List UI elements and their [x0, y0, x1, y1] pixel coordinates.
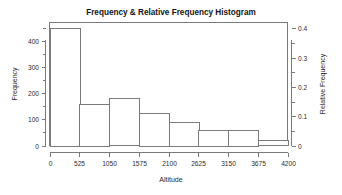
bottom-tick-label: 1575 [132, 160, 147, 167]
right-tick-label: 0.4 [298, 25, 307, 32]
right-axis-title: Relative Frequency [319, 53, 327, 114]
bottom-tick-label: 2100 [162, 160, 177, 167]
histogram-bar [259, 141, 289, 146]
left-axis-title: Frequency [11, 67, 19, 101]
bottom-tick-label: 3150 [221, 160, 236, 167]
bottom-axis-title: Altitude [159, 176, 182, 183]
histogram-bar [80, 105, 110, 147]
bottom-tick-label: 2625 [191, 160, 206, 167]
right-tick-label: 0.1 [298, 113, 307, 120]
left-tick-label: 100 [28, 116, 39, 123]
right-tick-label: 0 [298, 143, 302, 150]
histogram-svg: Frequency & Relative Frequency Histogram… [0, 0, 342, 195]
bottom-tick-label: 4200 [281, 160, 296, 167]
left-tick-label: 200 [28, 90, 39, 97]
histogram-bar [110, 99, 140, 146]
histogram-bar [170, 123, 200, 147]
left-tick-label: 300 [28, 64, 39, 71]
histogram-bar [229, 131, 259, 147]
histogram-bar [51, 29, 81, 147]
histogram-bar [199, 131, 229, 147]
histogram-bar [140, 114, 170, 147]
right-tick-label: 0.2 [298, 84, 307, 91]
right-tick-label: 0.3 [298, 55, 307, 62]
histogram-chart: Frequency & Relative Frequency Histogram… [0, 0, 342, 195]
bottom-tick-label: 3675 [251, 160, 266, 167]
chart-title: Frequency & Relative Frequency Histogram [86, 8, 256, 17]
bottom-tick-label: 1050 [102, 160, 117, 167]
bottom-tick-label: 525 [74, 160, 85, 167]
left-tick-label: 400 [28, 38, 39, 45]
bottom-tick-label: 0 [49, 160, 53, 167]
left-tick-label: 0 [35, 143, 39, 150]
